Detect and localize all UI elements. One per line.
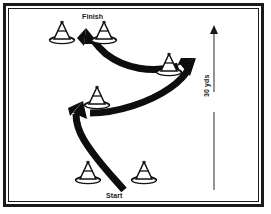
cone-start-right [132,162,157,184]
distance-measure-group [210,25,218,190]
cone-mid-lower [85,87,110,109]
drill-diagram: Finish Start 30 yds [0,0,271,214]
distance-arrow-up-icon [210,25,218,34]
cone-start-left [76,162,101,184]
finish-label: Finish [82,13,103,20]
cone-finish-right [92,22,117,44]
diagram-canvas [0,0,271,214]
distance-label: 30 yds [203,75,210,97]
cones-group [50,22,182,184]
cone-finish-left [50,22,75,44]
start-label: Start [106,192,122,199]
